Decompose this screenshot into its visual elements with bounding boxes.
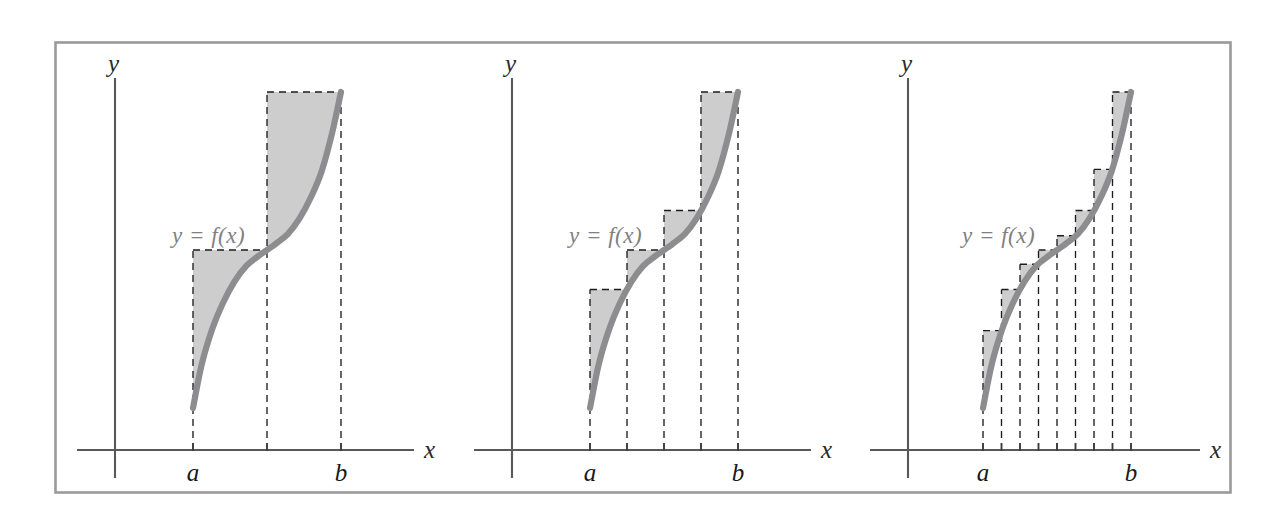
- function-label: y = f(x): [170, 223, 245, 248]
- x-axis-label: x: [820, 436, 832, 463]
- function-label: y = f(x): [567, 223, 642, 248]
- riemann-sum-figure: yxaby = f(x)yxaby = f(x)yxaby = f(x): [0, 0, 1282, 521]
- figure-container: yxaby = f(x)yxaby = f(x)yxaby = f(x): [0, 0, 1282, 521]
- upper-bound-label: b: [335, 459, 348, 486]
- y-axis-label: y: [898, 50, 913, 77]
- lower-bound-label: a: [187, 459, 200, 486]
- upper-bound-label: b: [732, 459, 745, 486]
- upper-bound-label: b: [1125, 459, 1138, 486]
- y-axis-label: y: [502, 50, 517, 77]
- x-axis-label: x: [423, 436, 435, 463]
- x-axis-label: x: [1209, 436, 1221, 463]
- y-axis-label: y: [105, 50, 120, 77]
- lower-bound-label: a: [977, 459, 990, 486]
- function-label: y = f(x): [960, 223, 1035, 248]
- lower-bound-label: a: [584, 459, 597, 486]
